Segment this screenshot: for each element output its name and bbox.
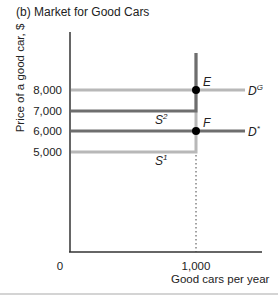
x-tick-0: 0	[57, 260, 63, 272]
y-tick-5000: 5,000	[33, 146, 62, 158]
x-tick-1000: 1,000	[182, 260, 211, 272]
curve-label-dstar: D*	[248, 124, 261, 139]
point-label-f: F	[203, 116, 211, 130]
equilibrium-point-e	[192, 86, 200, 94]
supply-curve-s2	[71, 53, 196, 111]
point-label-e: E	[203, 75, 212, 89]
bottom-divider	[0, 293, 278, 295]
x-axis-label: Good cars per year	[171, 273, 269, 285]
y-tick-7000: 7,000	[33, 105, 62, 117]
y-tick-6000: 6,000	[33, 125, 62, 137]
equilibrium-point-f	[192, 127, 200, 135]
chart-plot: 8,000 7,000 6,000 5,000 0 1,000 E F DG D…	[0, 0, 278, 296]
curve-label-s1: S1	[155, 153, 167, 168]
curve-label-dg: DG	[248, 83, 263, 98]
y-tick-8000: 8,000	[33, 84, 62, 96]
supply-curve-s1	[71, 53, 196, 152]
curve-label-s2: S2	[155, 112, 168, 127]
